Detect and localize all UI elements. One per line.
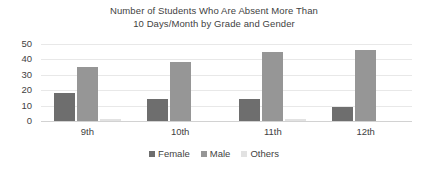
legend-label: Male <box>210 148 231 159</box>
bar-female-10th <box>147 99 168 121</box>
y-axis-tick-label: 40 <box>21 54 32 64</box>
bar-female-12th <box>332 107 353 121</box>
y-axis-tick-label: 20 <box>21 85 32 95</box>
x-axis-tick-label-12th: 12th <box>356 126 375 138</box>
bar-male-12th <box>355 50 376 121</box>
gridline-50 <box>41 44 412 45</box>
legend-item-others[interactable]: Others <box>241 148 279 159</box>
chart-title-line-2: 10 Days/Month by Grade and Gender <box>0 17 428 30</box>
bar-male-9th <box>77 67 98 121</box>
x-axis: 9th10th11th12th <box>41 126 412 140</box>
chart-title: Number of Students Who Are Absent More T… <box>0 4 428 30</box>
legend-item-male[interactable]: Male <box>201 148 231 159</box>
gridline-0 <box>41 121 412 122</box>
x-axis-tick-label-9th: 9th <box>81 126 94 138</box>
chart-title-line-1: Number of Students Who Are Absent More T… <box>0 4 428 17</box>
bar-male-11th <box>262 52 283 121</box>
y-axis-tick-label: 30 <box>21 70 32 80</box>
y-axis-tick-label: 0 <box>27 116 32 126</box>
bar-others-9th <box>100 119 121 121</box>
bar-male-10th <box>170 62 191 121</box>
chart-legend: FemaleMaleOthers <box>0 148 428 159</box>
y-axis-tick-label: 50 <box>21 39 32 49</box>
bar-female-11th <box>239 99 260 121</box>
legend-label: Female <box>158 148 190 159</box>
x-axis-tick-label-11th: 11th <box>264 126 282 138</box>
y-axis-tick-label: 10 <box>21 101 32 111</box>
legend-item-female[interactable]: Female <box>149 148 190 159</box>
bar-female-9th <box>54 93 75 121</box>
legend-swatch-icon <box>149 151 155 157</box>
x-axis-tick-label-10th: 10th <box>171 126 190 138</box>
legend-swatch-icon <box>241 151 247 157</box>
y-axis: 01020304050 <box>0 44 36 121</box>
bar-others-11th <box>285 119 306 121</box>
plot-area <box>41 44 412 121</box>
legend-swatch-icon <box>201 151 207 157</box>
bar-chart: Number of Students Who Are Absent More T… <box>0 0 428 169</box>
legend-label: Others <box>250 148 279 159</box>
